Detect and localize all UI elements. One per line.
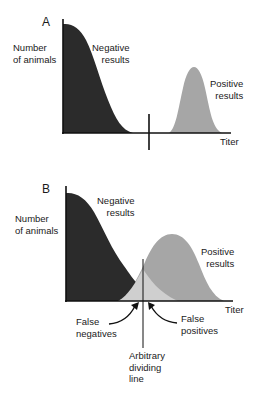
negative-label-line1: Negative: [97, 195, 135, 207]
positive-label-line2: results: [201, 258, 234, 270]
panel-b-x-axis-label: Titer: [225, 304, 244, 316]
false-positives-arrow: [151, 306, 177, 323]
y-label-line1: Number: [15, 213, 58, 225]
positive-label-line1: Positive: [201, 246, 234, 258]
panel-a-positive-label: Positive results: [210, 78, 243, 101]
y-label-line2: of animals: [15, 225, 58, 237]
negative-label-line2: results: [92, 54, 130, 66]
y-label-line1: Number: [13, 42, 56, 54]
positive-label-line2: results: [210, 90, 243, 102]
panel-a-negative-label: Negative results: [92, 42, 130, 65]
false-negatives-line1: False: [76, 316, 117, 328]
dividing-line-label: Arbitrary dividing line: [129, 350, 165, 385]
panel-b-positive-label: Positive results: [201, 246, 234, 269]
positive-label-line1: Positive: [210, 78, 243, 90]
panel-a-letter: A: [42, 15, 50, 29]
false-positives-line2: positives: [181, 325, 218, 337]
false-negatives-line2: negatives: [76, 328, 117, 340]
y-label-line2: of animals: [13, 54, 56, 66]
negative-label-line1: Negative: [92, 42, 130, 54]
negative-label-line2: results: [97, 207, 135, 219]
false-negatives-arrowhead: [131, 302, 139, 310]
false-positives-label: False positives: [181, 313, 218, 336]
divider-label-line3: line: [129, 373, 165, 385]
false-positives-arrowhead: [148, 302, 155, 310]
panel-a-y-axis-label: Number of animals: [13, 42, 56, 65]
false-positives-line1: False: [181, 313, 218, 325]
divider-label-line2: dividing: [129, 362, 165, 374]
panel-b-letter: B: [42, 182, 50, 196]
panel-b-y-axis-label: Number of animals: [15, 213, 58, 236]
panel-a-x-axis-label: Titer: [220, 136, 239, 148]
panel-b-negative-label: Negative results: [97, 195, 135, 218]
divider-label-line1: Arbitrary: [129, 350, 165, 362]
false-negatives-label: False negatives: [76, 316, 117, 339]
